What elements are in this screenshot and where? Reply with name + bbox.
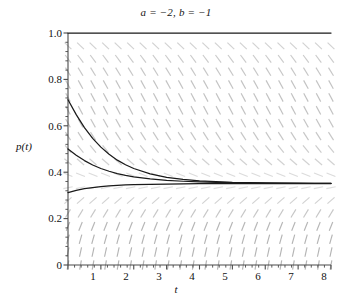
slope-field-plot-figure: a = −2, b = −1 1.0 0.8 0.6 0.4 0.2 0 1 2… xyxy=(0,0,352,304)
solution-curve xyxy=(68,149,331,183)
plot-canvas xyxy=(0,0,352,304)
slope-field-group xyxy=(63,43,335,270)
